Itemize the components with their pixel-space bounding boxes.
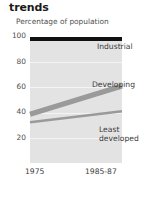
series-label-least-developed: Least developed [99,126,139,143]
x-axis-tick-1985-87: 1985-87 [85,167,117,176]
y-axis-tick-100: 100 [0,31,26,40]
series-label-industrial: Industrial [97,43,133,52]
series-developing-line [30,86,122,114]
y-axis-tick-60: 60 [0,82,26,91]
series-label-developing: Developing [92,81,135,90]
x-axis-tick-1975: 1975 [25,167,44,176]
y-axis-tick-80: 80 [0,57,26,66]
series-least-developed-line [30,111,122,122]
y-axis-tick-40: 40 [0,107,26,116]
chart-container: trends Percentage of population 100 80 6… [0,0,158,200]
y-axis-tick-20: 20 [0,133,26,142]
series-label-least-line2: developed [99,135,139,144]
series-lines [0,0,158,200]
